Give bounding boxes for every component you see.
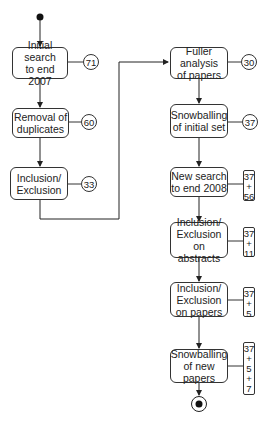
step-snowballing-initial: Snowballing of initial set — [170, 104, 228, 138]
count-part: 5 — [246, 309, 251, 319]
count-new-search: 37 + 56 — [243, 170, 255, 201]
count-initial-search: 71 — [83, 54, 99, 70]
count-part: 56 — [244, 192, 255, 202]
start-node-icon — [37, 14, 44, 21]
step-snowballing-new: Snowballing of new papers — [170, 349, 228, 383]
count-snowballing-initial: 37 — [242, 114, 258, 130]
count-inclusion-exclusion-abstracts: 37 + 11 — [243, 227, 255, 257]
step-inclusion-exclusion-papers: Inclusion/ Exclusion on papers — [170, 282, 228, 317]
end-node-icon — [192, 397, 207, 412]
count-part: 11 — [244, 249, 254, 259]
count-snowballing-new: 37 + 5 + 7 — [243, 342, 255, 395]
count-fuller-analysis: 30 — [241, 54, 257, 70]
count-inclusion-exclusion: 33 — [81, 176, 97, 192]
step-removal-duplicates: Removal of duplicates — [12, 108, 69, 138]
step-inclusion-exclusion: Inclusion/ Exclusion — [10, 167, 68, 200]
step-inclusion-exclusion-abstracts: Inclusion/ Exclusion on abstracts — [170, 222, 228, 258]
count-removal-duplicates: 60 — [81, 114, 97, 130]
step-fuller-analysis: Fuller analysis of papers — [170, 47, 228, 79]
count-inclusion-exclusion-papers: 37 + 5 — [243, 287, 255, 317]
step-new-search: New search to end 2008 — [170, 167, 228, 197]
count-part: 7 — [246, 384, 251, 394]
step-initial-search: Initial search to end 2007 — [12, 47, 68, 79]
